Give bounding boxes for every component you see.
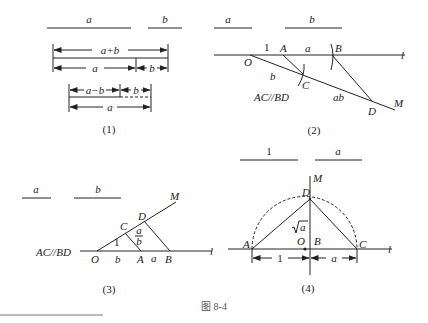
segment-b-label: b bbox=[95, 183, 101, 195]
segment-DB bbox=[144, 221, 170, 251]
point-B: B bbox=[165, 253, 172, 265]
length-AB: 1 bbox=[277, 252, 283, 264]
segment-b-label: b bbox=[162, 13, 168, 25]
point-D: D bbox=[367, 105, 376, 117]
length-BC: a bbox=[331, 252, 337, 264]
parallel-note: AC//BD bbox=[253, 91, 289, 103]
panel-4: 1 a 1 a A O B C D M l a (4) bbox=[228, 145, 392, 295]
point-O: O bbox=[297, 235, 305, 247]
point-M: M bbox=[312, 172, 323, 184]
panel-4-caption: (4) bbox=[302, 282, 315, 295]
point-M: M bbox=[393, 97, 404, 109]
point-B: B bbox=[314, 235, 321, 247]
panel-1-caption: (1) bbox=[103, 123, 116, 136]
b2-label: b bbox=[133, 84, 139, 96]
point-D: D bbox=[301, 186, 310, 198]
panel-2-caption: (2) bbox=[308, 124, 321, 137]
point-C: C bbox=[302, 79, 310, 91]
panel-3: a b AC//BD O b A a B l 1 C D M a b (3) bbox=[22, 183, 213, 296]
figure-8-4: a b a+b a b a−b b a (1) bbox=[0, 0, 428, 323]
a-label: a bbox=[92, 62, 98, 74]
point-C: C bbox=[120, 220, 128, 232]
sum-label: a+b bbox=[101, 44, 120, 56]
diff-label: a−b bbox=[86, 84, 105, 96]
length-BD: a bbox=[300, 221, 306, 233]
segment-a-label: a bbox=[225, 13, 231, 25]
panel-3-caption: (3) bbox=[103, 283, 116, 296]
center-O-dot bbox=[303, 247, 306, 250]
length-OC: 1 bbox=[114, 236, 120, 248]
segment-a-label: a bbox=[33, 183, 39, 195]
length-OA: 1 bbox=[264, 41, 270, 53]
length-OA: b bbox=[115, 253, 121, 265]
panel-1: a b a+b a b a−b b a (1) bbox=[47, 13, 182, 136]
point-M: M bbox=[169, 190, 180, 202]
segment-a-label: a bbox=[335, 145, 341, 157]
point-O: O bbox=[244, 56, 252, 68]
point-D: D bbox=[137, 210, 146, 222]
point-A: A bbox=[242, 238, 250, 250]
point-A: A bbox=[136, 253, 144, 265]
arc-B bbox=[331, 44, 333, 70]
label-l: l bbox=[210, 245, 213, 257]
point-B: B bbox=[335, 42, 342, 54]
segment-a-label: a bbox=[86, 13, 92, 25]
length-AB: a bbox=[151, 252, 157, 264]
b-label: b bbox=[149, 62, 155, 74]
figure-caption: 图 8-4 bbox=[201, 301, 227, 312]
label-l: l bbox=[388, 243, 391, 255]
parallel-note: AC//BD bbox=[35, 246, 71, 258]
length-CD: ab bbox=[333, 91, 345, 103]
point-A: A bbox=[279, 42, 287, 54]
label-l: l bbox=[401, 49, 404, 61]
fraction-denominator: b bbox=[136, 235, 142, 247]
panel-2: a b O 1 A a B l b C AC//BD ab D M (2) bbox=[214, 13, 405, 137]
length-OC: b bbox=[270, 70, 276, 82]
length-AB: a bbox=[305, 42, 311, 54]
a2-label: a bbox=[107, 101, 113, 113]
segment-1-label: 1 bbox=[266, 145, 272, 157]
segment-b-label: b bbox=[309, 13, 315, 25]
point-C: C bbox=[359, 238, 367, 250]
point-O: O bbox=[91, 253, 99, 265]
